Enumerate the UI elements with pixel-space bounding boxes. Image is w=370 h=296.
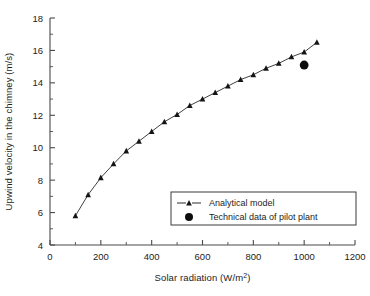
series-analytical-model: [73, 39, 320, 218]
y-axis-label: Upwind velocity in the chimney (m/s): [3, 53, 14, 211]
x-axis-ticks: [50, 240, 355, 245]
x-tick-label: 200: [93, 251, 109, 262]
data-point-marker: [300, 61, 309, 70]
data-point-marker: [212, 89, 218, 95]
data-point-marker: [314, 39, 320, 45]
x-tick-label: 600: [195, 251, 211, 262]
x-tick-label: 400: [144, 251, 160, 262]
data-point-marker: [200, 96, 206, 102]
data-point-marker: [73, 213, 79, 219]
data-point-marker: [136, 138, 142, 144]
data-point-marker: [174, 111, 180, 117]
data-point-marker: [149, 128, 155, 134]
x-tick-label: 800: [245, 251, 261, 262]
y-axis-tick-labels: 4681012141618: [32, 13, 43, 251]
data-point-marker: [250, 72, 256, 78]
chart-canvas: 020040060080010001200 4681012141618 Sola…: [0, 0, 370, 296]
y-tick-label: 16: [32, 45, 43, 56]
data-point-marker: [301, 49, 307, 55]
y-axis-ticks: [50, 18, 55, 245]
chart-figure: 020040060080010001200 4681012141618 Sola…: [0, 0, 370, 296]
data-point-marker: [123, 148, 129, 154]
y-tick-label: 6: [38, 207, 43, 218]
legend-circle-icon: [185, 213, 193, 221]
x-tick-label: 1000: [294, 251, 315, 262]
legend-label: Analytical model: [209, 198, 275, 208]
data-point-marker: [225, 83, 231, 89]
series-technical-data-of-pilot-plant: [300, 61, 309, 70]
data-point-marker: [187, 102, 193, 108]
series-line: [75, 42, 316, 215]
chart-legend: Analytical modelTechnical data of pilot …: [171, 192, 356, 225]
y-tick-label: 10: [32, 142, 43, 153]
y-tick-label: 18: [32, 13, 43, 24]
y-tick-label: 12: [32, 110, 43, 121]
data-series: [73, 39, 320, 218]
y-tick-label: 14: [32, 77, 43, 88]
x-tick-label: 0: [47, 251, 52, 262]
x-axis-label: Solar radiation (W/m2): [155, 272, 251, 284]
y-tick-label: 8: [38, 175, 43, 186]
x-tick-label: 1200: [344, 251, 365, 262]
data-point-marker: [276, 60, 282, 66]
x-axis-tick-labels: 020040060080010001200: [47, 251, 365, 262]
y-tick-label: 4: [38, 240, 43, 251]
data-point-marker: [162, 119, 168, 125]
legend-label: Technical data of pilot plant: [209, 212, 318, 222]
